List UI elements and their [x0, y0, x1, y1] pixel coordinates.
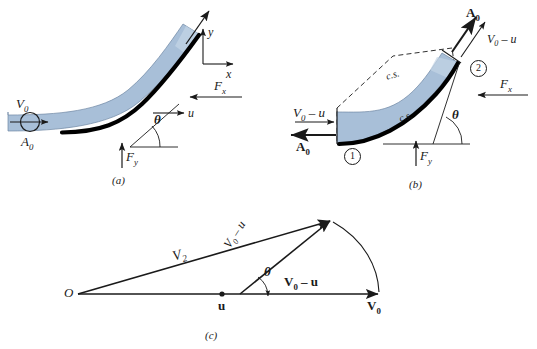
vane-speed-label-a: u: [188, 107, 194, 119]
inlet-area-label-a: A0: [21, 135, 33, 151]
exit-area-label-b: A0: [466, 6, 480, 22]
exit-relative-velocity-vector-b: [461, 22, 485, 57]
station-1-marker-b: 1: [344, 148, 361, 165]
exit-relative-velocity-label-b: V0 – u: [487, 33, 516, 49]
axis-y-label-a: y: [208, 26, 213, 38]
angle-arc-c: [258, 277, 268, 296]
force-y-label-b: Fy: [420, 149, 432, 165]
inlet-velocity-label-a: V0: [16, 97, 28, 113]
angle-arc-a: [152, 126, 160, 147]
relative-velocity-horizontal-label-c: V0 – u: [284, 275, 318, 291]
inlet-relative-velocity-label-b: V0 – u: [293, 106, 325, 122]
axis-x-label-a: x: [226, 68, 231, 80]
angle-label-b: θ: [452, 108, 459, 121]
jet-velocity-label-c: V0: [367, 299, 381, 315]
caption-panel-c: (c): [205, 330, 217, 341]
panel-a-graphics: [8, 11, 242, 168]
caption-panel-a: (a): [112, 175, 125, 186]
vane-velocity-node-c: [219, 291, 224, 296]
inlet-area-label-b: A0: [296, 140, 310, 156]
vane-velocity-label-c: u: [218, 299, 225, 312]
figure-canvas: [0, 0, 537, 349]
force-x-label-a: Fx: [214, 79, 226, 95]
caption-panel-b: (b): [409, 179, 422, 190]
origin-label-c: O: [64, 286, 73, 299]
force-y-label-a: Fy: [126, 150, 138, 166]
angle-label-a: θ: [154, 113, 161, 126]
angle-label-c: θ: [264, 265, 271, 278]
force-x-label-b: Fx: [500, 77, 512, 93]
relative-speed-arc-c: [333, 222, 379, 292]
figure-root: V0 A0 u θ Fx Fy y x (a) V0 – u A0 A0 V0 …: [0, 0, 537, 349]
station-2-marker-b: 2: [470, 60, 487, 77]
